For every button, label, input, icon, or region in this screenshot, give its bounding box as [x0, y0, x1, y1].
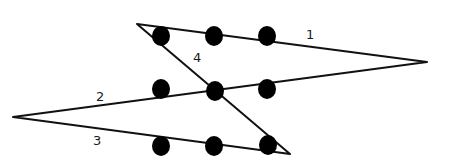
- dot-2: [205, 26, 223, 46]
- dot-8: [205, 136, 223, 156]
- dot-1: [152, 26, 170, 46]
- nine-dots-diagram: 1234: [0, 0, 454, 165]
- line-label-1: 1: [306, 27, 314, 42]
- line-label-2: 2: [96, 89, 104, 104]
- dot-7: [152, 136, 170, 156]
- dot-3: [258, 26, 276, 46]
- line-label-4: 4: [193, 50, 201, 65]
- dot-6: [258, 79, 276, 99]
- line-label-3: 3: [93, 133, 101, 148]
- line-labels: 1234: [93, 27, 314, 148]
- dot-4: [152, 79, 170, 99]
- dot-5: [206, 81, 224, 101]
- dot-9: [259, 135, 277, 155]
- dot-grid: [152, 26, 277, 156]
